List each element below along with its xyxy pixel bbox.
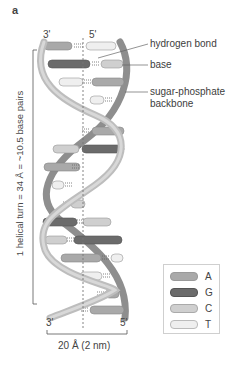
- legend-item-c: C: [170, 303, 212, 313]
- helix-width-label: 20 Å (2 nm): [58, 340, 110, 351]
- legend-swatch-g: [170, 288, 198, 297]
- legend-label-g: G: [205, 287, 213, 298]
- bottom-3prime-label: 3': [46, 317, 53, 328]
- legend-item-g: G: [170, 287, 213, 297]
- label-hydrogen-bond: hydrogen bond: [150, 38, 217, 50]
- legend-label-t: T: [205, 319, 211, 330]
- legend-label-a: A: [205, 271, 212, 282]
- label-base: base: [150, 59, 172, 71]
- helical-turn-bracket: [33, 50, 37, 304]
- legend-swatch-t: [170, 320, 198, 329]
- label-backbone-line1: sugar-phosphate: [150, 86, 225, 98]
- label-backbone-line2: backbone: [150, 98, 193, 110]
- width-bracket: [47, 330, 127, 334]
- base-legend: A G C T: [163, 264, 220, 334]
- bottom-5prime-label: 5': [120, 317, 127, 328]
- helical-turn-label: 1 helical turn = 34 Å = ~10.5 base pairs: [14, 59, 25, 289]
- legend-label-c: C: [205, 303, 212, 314]
- legend-item-t: T: [170, 319, 211, 329]
- legend-item-a: A: [170, 271, 212, 281]
- legend-swatch-a: [170, 272, 198, 281]
- legend-swatch-c: [170, 304, 198, 313]
